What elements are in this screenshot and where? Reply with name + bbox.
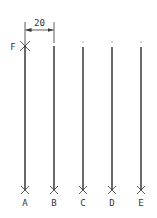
point-f-label: F xyxy=(10,42,15,52)
line-d: D xyxy=(108,47,116,208)
line-e-label: E xyxy=(138,198,143,208)
line-a: A xyxy=(21,46,29,208)
diagram-svg: 20 F A B xyxy=(0,0,157,218)
line-e: E xyxy=(137,47,145,208)
line-d-label: D xyxy=(109,198,114,208)
line-c: C xyxy=(79,47,87,208)
line-c-label: C xyxy=(80,198,85,208)
line-b-label: B xyxy=(51,198,56,208)
dimension-label: 20 xyxy=(34,18,45,28)
diagram-canvas: 20 F A B xyxy=(0,0,157,218)
line-b: B xyxy=(50,46,58,208)
line-a-label: A xyxy=(22,198,28,208)
